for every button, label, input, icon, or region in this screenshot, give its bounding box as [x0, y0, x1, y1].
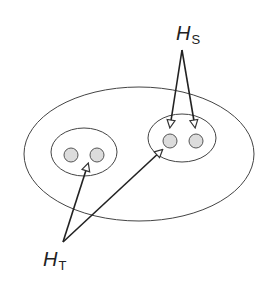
right-group — [148, 114, 216, 162]
left-node-2 — [90, 148, 104, 162]
hs-label: HS — [176, 22, 200, 47]
hs-arrow-left — [170, 50, 182, 127]
ht-label: HT — [43, 248, 66, 273]
hs-arrow-right — [182, 50, 195, 127]
hs-arrows — [170, 50, 195, 127]
left-node-1 — [64, 148, 78, 162]
right-node-1 — [163, 134, 177, 148]
diagram-canvas: HS HT — [0, 0, 276, 281]
right-inner-ellipse — [148, 114, 216, 162]
right-node-2 — [189, 134, 203, 148]
left-group — [51, 128, 117, 176]
outer-ellipse — [24, 87, 254, 221]
left-inner-ellipse — [51, 128, 117, 176]
